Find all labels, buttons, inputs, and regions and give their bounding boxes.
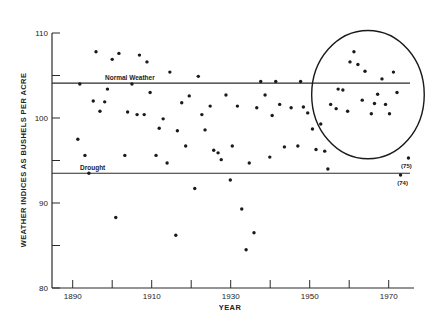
y-tick-label: 90: [39, 199, 48, 208]
data-point: [248, 161, 251, 164]
data-point: [98, 110, 101, 113]
data-point: [87, 172, 90, 175]
data-point: [224, 93, 227, 96]
data-point: [193, 187, 196, 190]
data-point: [289, 106, 292, 109]
data-point: [216, 151, 219, 154]
data-point: [319, 122, 322, 125]
point-annotation: (74): [397, 180, 408, 186]
data-point: [197, 75, 200, 78]
data-point: [203, 128, 206, 131]
data-point: [123, 154, 126, 157]
data-point: [174, 234, 177, 237]
data-point: [236, 104, 239, 107]
reference-label: Drought: [80, 164, 106, 172]
data-point: [283, 145, 286, 148]
data-point: [106, 87, 109, 90]
data-point: [274, 80, 277, 83]
data-point: [268, 155, 271, 158]
data-point: [135, 113, 138, 116]
data-point: [380, 77, 383, 80]
data-point: [92, 99, 95, 102]
highlight-circle: [312, 30, 425, 158]
data-point: [114, 216, 117, 219]
data-point: [346, 110, 349, 113]
data-point: [392, 70, 395, 73]
data-point: [306, 111, 309, 114]
data-point: [399, 173, 402, 176]
y-tick-label: 100: [35, 114, 49, 123]
point-annotation: (75): [401, 163, 412, 169]
y-tick-label: 80: [39, 284, 48, 293]
data-point: [278, 103, 281, 106]
data-point: [407, 156, 410, 159]
data-point: [384, 103, 387, 106]
highlight-ellipse: [312, 30, 425, 158]
reference-lines: Normal WeatherDrought: [52, 74, 410, 173]
data-point: [270, 114, 273, 117]
data-point: [395, 91, 398, 94]
data-point: [314, 148, 317, 151]
data-point: [352, 50, 355, 53]
scatter-chart: 809010011018901910193019501970 Normal We…: [0, 0, 441, 331]
data-point: [229, 178, 232, 181]
data-point: [252, 231, 255, 234]
data-point: [78, 82, 81, 85]
data-point: [126, 110, 129, 113]
data-point: [259, 80, 262, 83]
data-point: [240, 207, 243, 210]
data-point: [336, 87, 339, 90]
y-tick-label: 110: [35, 29, 48, 38]
x-tick-label: 1930: [222, 292, 240, 301]
x-tick-label: 1950: [301, 292, 319, 301]
data-point: [111, 58, 114, 61]
data-point: [180, 101, 183, 104]
data-point: [329, 103, 332, 106]
data-point: [376, 93, 379, 96]
x-tick-label: 1910: [143, 292, 161, 301]
data-point: [154, 154, 157, 157]
x-tick-label: 1890: [64, 292, 82, 301]
reference-label: Normal Weather: [105, 74, 155, 81]
data-point: [212, 149, 215, 152]
data-point: [323, 149, 326, 152]
data-point: [76, 138, 79, 141]
data-point: [148, 91, 151, 94]
x-axis-title: YEAR: [219, 303, 242, 312]
data-point: [83, 154, 86, 157]
data-point: [94, 50, 97, 53]
data-point: [370, 112, 373, 115]
data-point: [334, 107, 337, 110]
data-point: [200, 113, 203, 116]
data-point: [388, 112, 391, 115]
data-point: [161, 117, 164, 120]
data-point: [158, 127, 161, 130]
data-point: [255, 106, 258, 109]
data-point: [176, 129, 179, 132]
data-point: [220, 158, 223, 161]
data-point: [208, 104, 211, 107]
data-point: [138, 53, 141, 56]
data-point: [348, 60, 351, 63]
data-point: [184, 144, 187, 147]
data-point: [299, 80, 302, 83]
data-point: [363, 70, 366, 73]
data-point: [244, 248, 247, 251]
data-point: [188, 94, 191, 97]
data-point: [373, 102, 376, 105]
data-point: [117, 52, 120, 55]
data-point: [103, 100, 106, 103]
data-point: [168, 70, 171, 73]
data-point: [130, 82, 133, 85]
data-point: [302, 105, 305, 108]
data-point: [142, 113, 145, 116]
data-point: [341, 88, 344, 91]
data-point: [326, 167, 329, 170]
data-point: [231, 144, 234, 147]
data-point: [311, 127, 314, 130]
x-tick-label: 1970: [380, 292, 398, 301]
y-axis-title: WEATHER INDICES AS BUSHELS PER ACRE: [19, 73, 28, 248]
data-point: [361, 98, 364, 101]
data-point: [165, 161, 168, 164]
data-point: [145, 60, 148, 63]
